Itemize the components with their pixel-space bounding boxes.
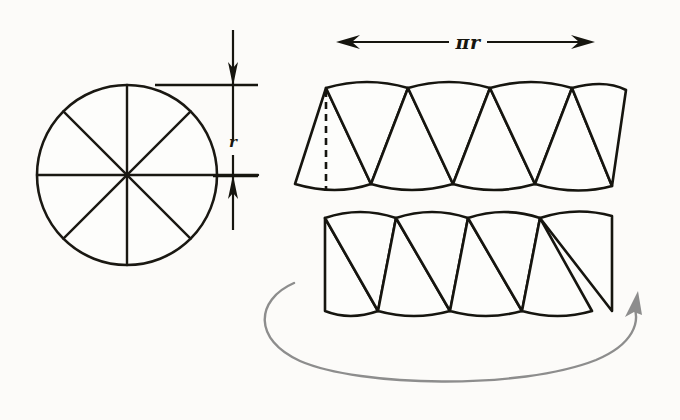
diagram-canvas: r πr (0, 0, 680, 420)
width-label: πr (455, 31, 482, 53)
sectors-spread-row (295, 82, 626, 191)
circle-area-diagram: r πr (0, 0, 680, 420)
sectors-compacted-row (325, 211, 612, 316)
rotation-arrowhead (625, 291, 642, 317)
width-dimension-arrow: πr (336, 31, 595, 53)
radius-label: r (229, 133, 238, 151)
